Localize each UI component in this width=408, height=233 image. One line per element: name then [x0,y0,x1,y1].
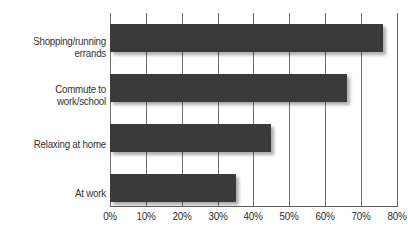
category-label-shopping-running-errands: Shopping/running errands [7,35,106,59]
gridline-80 [397,13,398,207]
bar-commute-to-work-school [110,74,347,102]
category-axis: Shopping/running errands Commute to work… [0,13,106,207]
xtick-label-50: 50% [270,210,308,223]
bar-at-work [110,174,236,202]
xtick-label-10: 10% [127,210,165,223]
xtick-label-70: 70% [342,210,380,223]
xtick-label-80: 80% [378,210,408,223]
category-label-relaxing-at-home: Relaxing at home [7,138,106,150]
value-axis-line [110,206,398,207]
plot-area [110,13,397,207]
bar-shopping-running-errands [110,24,383,52]
xtick-label-40: 40% [234,210,272,223]
xtick-label-20: 20% [163,210,201,223]
bars-layer [110,13,397,207]
bar-relaxing-at-home [110,124,271,152]
xtick-label-60: 60% [306,210,344,223]
xtick-label-30: 30% [199,210,237,223]
category-label-at-work: At work [7,187,106,199]
xtick-label-0: 0% [91,210,129,223]
category-label-commute-to-work-school: Commute to work/school [7,83,106,107]
value-axis: 0% 10% 20% 30% 40% 50% 60% 70% 80% [0,210,408,230]
bar-chart: Shopping/running errands Commute to work… [0,0,408,233]
